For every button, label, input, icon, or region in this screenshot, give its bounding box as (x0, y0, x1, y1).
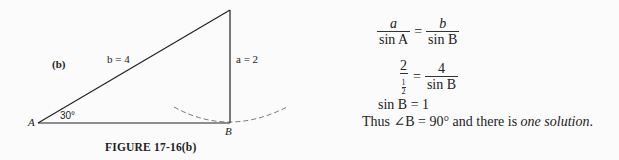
panel-label: (b) (52, 58, 65, 70)
side-a-label: a = 2 (236, 53, 258, 65)
eq2-rhs-den: sin B (425, 76, 458, 93)
eq1-rhs-den: sin B (426, 31, 459, 48)
vertex-a-label: A (28, 116, 35, 128)
conclusion-prefix: Thus ∠B = 90° and there is (362, 114, 521, 129)
eq2-equals: = (413, 69, 421, 85)
conclusion-suffix: . (589, 114, 593, 129)
eq2-half-num: 1 (402, 79, 406, 87)
figure-caption: FIGURE 17-16(b) (105, 141, 197, 153)
eq2-half-den: 2 (402, 87, 406, 96)
equation-substituted: 212 = 4sin B (398, 58, 458, 96)
angle-label: 30° (60, 110, 75, 121)
eq2-rhs-num: 4 (436, 61, 447, 76)
equation-result: sin B = 1 (378, 97, 429, 113)
equation-law-of-sines: asin A = bsin B (377, 16, 459, 48)
eq1-rhs-num: b (437, 16, 448, 31)
eq1-lhs-den: sin A (377, 31, 410, 48)
eq1-equals: = (414, 24, 422, 40)
triangle-diagram (0, 0, 619, 160)
conclusion-emphasis: one solution (521, 114, 590, 129)
conclusion-text: Thus ∠B = 90° and there is one solution. (362, 113, 593, 130)
eq1-lhs-num: a (388, 16, 399, 31)
vertex-b-label: B (225, 125, 232, 137)
side-b-label: b = 4 (107, 53, 130, 65)
eq2-lhs-num: 2 (398, 58, 409, 73)
